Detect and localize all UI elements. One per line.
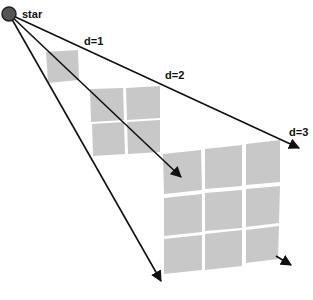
grid-d3 [163,140,280,274]
tile [246,226,279,263]
inverse-square-law-diagram: star d=1 d=2 d=3 [0,0,313,300]
tile [163,150,202,194]
tile [246,186,280,227]
tile [46,50,79,83]
distance-label-d2: d=2 [165,69,184,81]
tile [246,140,280,185]
tile [164,194,202,236]
tile [92,122,125,156]
tile [205,190,242,231]
ray-corner-arrow [276,256,291,265]
star-label: star [22,8,43,20]
distance-label-d1: d=1 [84,35,103,47]
grid-d1 [46,50,79,83]
tile [90,88,124,122]
tile [205,230,242,270]
tile [127,120,160,154]
tile [164,235,202,274]
tile [205,145,242,189]
star-icon [2,7,16,21]
grid-d2 [90,86,160,156]
diagram-svg: star d=1 d=2 d=3 [0,0,313,300]
tile [126,86,160,120]
distance-label-d3: d=3 [289,126,308,138]
